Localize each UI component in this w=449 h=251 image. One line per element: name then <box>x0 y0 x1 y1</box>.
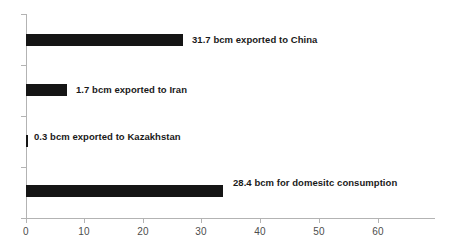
bar-label-domestic: 28.4 bcm for domesitc consumption <box>233 177 397 188</box>
x-axis-tick-label-10: 10 <box>78 226 90 237</box>
x-axis-tick <box>143 219 144 223</box>
x-axis-tick-label-20: 20 <box>137 226 149 237</box>
bar-label-kazakhstan: 0.3 bcm exported to Kazakhstan <box>34 131 181 142</box>
x-axis-tick <box>319 219 320 223</box>
bar-chart: 0 10 20 30 40 50 60 31.7 bcm exported to… <box>0 0 449 251</box>
y-axis-tick <box>21 116 26 117</box>
x-axis-tick-label-40: 40 <box>254 226 266 237</box>
y-axis-tick <box>21 14 26 15</box>
x-axis-tick <box>84 219 85 223</box>
x-axis-tick <box>378 219 379 223</box>
y-axis-tick <box>21 167 26 168</box>
x-axis-tick-label-60: 60 <box>372 226 384 237</box>
x-axis-tick <box>201 219 202 223</box>
bar-label-iran: 1.7 bcm exported to Iran <box>76 84 187 95</box>
x-axis-tick <box>260 219 261 223</box>
y-axis-tick <box>21 65 26 66</box>
x-axis-tick-label-30: 30 <box>195 226 207 237</box>
x-axis-tick <box>26 219 27 223</box>
bar-china <box>26 34 183 46</box>
x-axis-line <box>26 218 435 219</box>
bar-domestic <box>26 185 223 197</box>
bar-label-china: 31.7 bcm exported to China <box>192 34 317 45</box>
bar-iran <box>26 84 67 96</box>
bar-kazakhstan <box>26 135 28 147</box>
x-axis-tick-label-50: 50 <box>313 226 325 237</box>
x-axis-tick-label-0: 0 <box>23 226 29 237</box>
